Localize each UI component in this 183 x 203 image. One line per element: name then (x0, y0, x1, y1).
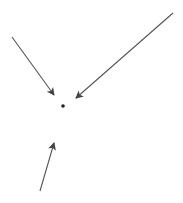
center-dot (61, 104, 65, 108)
arrow-top-right-icon (76, 13, 173, 98)
arrows-to-point-diagram (0, 0, 183, 203)
arrows-group (12, 13, 173, 191)
arrow-bottom-icon (40, 143, 54, 191)
diagram-canvas (0, 0, 183, 203)
arrow-top-left-icon (12, 37, 54, 95)
